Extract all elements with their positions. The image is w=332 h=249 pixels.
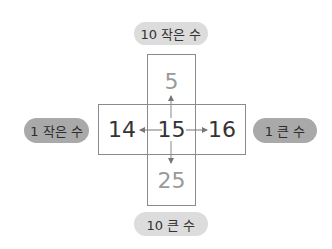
number-bottom: 25 — [147, 170, 196, 192]
number-right: 16 — [206, 119, 238, 141]
number-top: 5 — [147, 71, 196, 93]
number-left: 14 — [106, 119, 138, 141]
number-center: 15 — [155, 119, 188, 141]
